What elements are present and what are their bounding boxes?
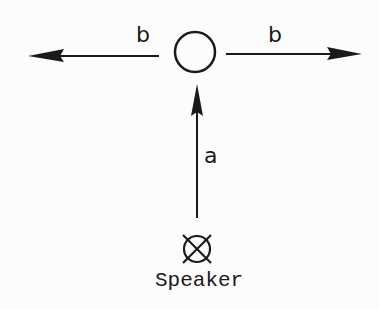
right-arrow [226,47,362,60]
label-left-b: b [136,24,150,46]
vertical-arrow [191,84,203,218]
diagram-canvas [0,0,379,309]
label-right-b: b [268,24,282,46]
label-a: a [204,145,217,167]
listener-circle [175,32,215,72]
speaker-icon [183,235,211,263]
left-arrow [28,49,159,62]
speaker-label: Speaker [155,270,243,291]
